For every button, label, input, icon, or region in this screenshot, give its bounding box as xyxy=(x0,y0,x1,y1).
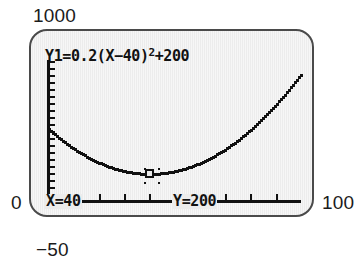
cursor-marker-dot xyxy=(158,168,160,170)
window-xmin-label: 0 xyxy=(11,193,22,212)
calculator-screen[interactable]: Y1=0.2(X−40)2+200 X=40 Y=200 xyxy=(29,29,314,217)
window-ymin-label: −50 xyxy=(36,240,69,259)
window-ymax-label: 1000 xyxy=(33,6,76,25)
cursor-marker-dot xyxy=(144,182,146,184)
window-xmax-label: 100 xyxy=(322,193,354,212)
curve-point xyxy=(284,94,287,97)
plot-curve xyxy=(31,31,312,215)
curve-point xyxy=(288,89,291,92)
cursor-marker-dot xyxy=(144,168,146,170)
curve-point xyxy=(276,103,279,106)
cursor-marker-dot xyxy=(158,182,160,184)
curve-point xyxy=(300,74,303,77)
trace-x-readout: X=40 xyxy=(45,194,82,209)
trace-cursor[interactable] xyxy=(145,169,154,178)
curve-point xyxy=(296,79,299,82)
curve-point xyxy=(292,84,295,87)
trace-y-readout: Y=200 xyxy=(172,194,217,209)
